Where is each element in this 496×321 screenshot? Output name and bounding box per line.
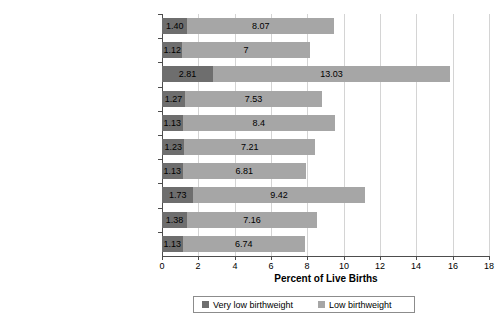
x-tick-label: 4: [222, 261, 248, 271]
x-tick-label: 0: [149, 261, 175, 271]
legend-swatch-icon-low-birthweight: [318, 301, 325, 308]
bar-value-label: 2.81: [162, 66, 213, 82]
bar-segment-very-low-birthweight: 1.40: [162, 18, 187, 34]
x-tick-label: 12: [367, 261, 393, 271]
bar-value-label: 8.07: [187, 18, 334, 34]
x-tick-mark: [271, 256, 272, 260]
bar-value-label: 1.13: [162, 115, 183, 131]
bar-segment-low-birthweight: 8.4: [183, 115, 336, 131]
bar-segment-very-low-birthweight: 2.81: [162, 66, 213, 82]
bar-row: Cuban1.387.16: [0, 208, 496, 232]
x-tick-mark: [307, 256, 308, 260]
bar-row: Central and South American1.136.74: [0, 232, 496, 256]
bar-segment-very-low-birthweight: 1.73: [162, 187, 193, 203]
bar-segment-low-birthweight: 9.42: [193, 187, 364, 203]
bar-chart: 024681012141618 Total1.408.07Non-Hispani…: [0, 0, 496, 321]
bar-segment-very-low-birthweight: 1.23: [162, 139, 184, 155]
bar-row: Mexican1.136.81: [0, 159, 496, 183]
bar-value-label: 1.38: [162, 212, 187, 228]
bar-segment-low-birthweight: 8.07: [187, 18, 334, 34]
bar-segment-very-low-birthweight: 1.38: [162, 212, 187, 228]
x-tick-label: 2: [185, 261, 211, 271]
x-tick-mark: [162, 256, 163, 260]
bar-row: Puerto Rican1.739.42: [0, 183, 496, 207]
legend-label-very-low-birthweight: Very low birthweight: [213, 300, 293, 310]
bar-value-label: 6.74: [183, 236, 305, 252]
bar-segment-very-low-birthweight: 1.13: [162, 163, 183, 179]
bar-segment-low-birthweight: 7.21: [184, 139, 315, 155]
bar-row: American Indian/Alaska Native1.277.53: [0, 87, 496, 111]
x-tick-mark: [344, 256, 345, 260]
legend-swatch-icon-very-low-birthweight: [202, 301, 209, 308]
bar-segment-low-birthweight: 7: [182, 42, 309, 58]
bar-value-label: 7: [182, 42, 309, 58]
bar-value-label: 1.23: [162, 139, 184, 155]
bar-row: Non-Hispanic White1.127: [0, 38, 496, 62]
x-tick-label: 18: [476, 261, 496, 271]
x-tick-mark: [198, 256, 199, 260]
bar-segment-very-low-birthweight: 1.27: [162, 91, 185, 107]
bar-value-label: 1.73: [162, 187, 193, 203]
x-tick-mark: [416, 256, 417, 260]
bar-value-label: 1.12: [162, 42, 182, 58]
bar-row: Asian/Pacific Islander1.138.4: [0, 111, 496, 135]
bar-value-label: 1.13: [162, 163, 183, 179]
x-tick-label: 16: [440, 261, 466, 271]
bar-value-label: 1.40: [162, 18, 187, 34]
bar-segment-low-birthweight: 7.16: [187, 212, 317, 228]
bar-row: Hispanic (Total)1.237.21: [0, 135, 496, 159]
chart-title-clipped: [0, 0, 496, 9]
bar-value-label: 7.16: [187, 212, 317, 228]
bar-value-label: 7.21: [184, 139, 315, 155]
legend-label-low-birthweight: Low birthweight: [329, 300, 392, 310]
x-tick-mark: [380, 256, 381, 260]
legend-entry-very-low-birthweight: Very low birthweight: [202, 299, 293, 312]
bar-segment-low-birthweight: 6.74: [183, 236, 305, 252]
bar-value-label: 9.42: [193, 187, 364, 203]
bar-segment-very-low-birthweight: 1.13: [162, 236, 183, 252]
x-tick-label: 8: [294, 261, 320, 271]
x-axis-title: Percent of Live Births: [162, 273, 490, 284]
x-tick-label: 10: [331, 261, 357, 271]
bar-segment-very-low-birthweight: 1.12: [162, 42, 182, 58]
x-axis-line: [162, 256, 490, 257]
bar-row: Non-Hispanic Black2.8113.03: [0, 62, 496, 86]
bar-segment-very-low-birthweight: 1.13: [162, 115, 183, 131]
bar-value-label: 8.4: [183, 115, 336, 131]
bar-value-label: 6.81: [183, 163, 307, 179]
legend: Very low birthweight Low birthweight: [193, 296, 415, 313]
x-tick-label: 14: [403, 261, 429, 271]
bar-value-label: 1.27: [162, 91, 185, 107]
bar-segment-low-birthweight: 13.03: [213, 66, 450, 82]
bar-row: Total1.408.07: [0, 14, 496, 38]
x-tick-mark: [453, 256, 454, 260]
x-tick-mark: [235, 256, 236, 260]
bar-segment-low-birthweight: 6.81: [183, 163, 307, 179]
bar-value-label: 7.53: [185, 91, 322, 107]
bar-segment-low-birthweight: 7.53: [185, 91, 322, 107]
bar-value-label: 1.13: [162, 236, 183, 252]
bar-value-label: 13.03: [213, 66, 450, 82]
legend-entry-low-birthweight: Low birthweight: [318, 299, 392, 312]
x-tick-mark: [489, 256, 490, 260]
x-tick-label: 6: [258, 261, 284, 271]
